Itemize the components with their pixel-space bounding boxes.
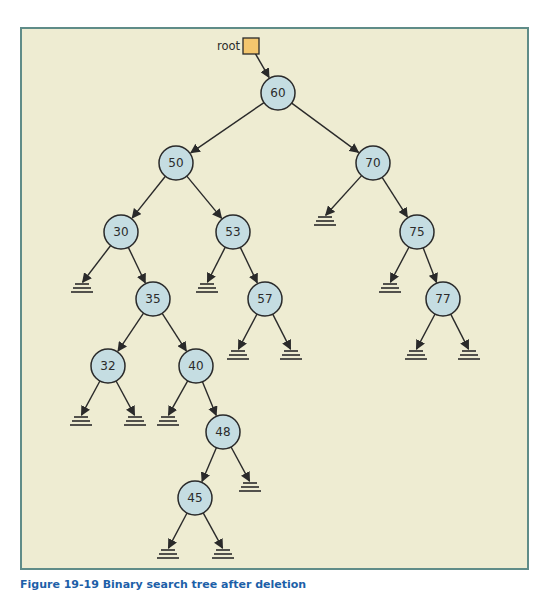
null-icon <box>157 417 179 425</box>
tree-node-35: 35 <box>136 282 170 316</box>
edge-70-75 <box>382 177 407 216</box>
null-icon <box>196 284 218 292</box>
null-icon <box>70 417 92 425</box>
node-value: 35 <box>145 292 160 306</box>
node-value: 60 <box>270 86 285 100</box>
edge-48-null-right <box>231 447 249 481</box>
edge-57-null-right <box>273 314 291 349</box>
edge-32-null-left <box>81 381 99 415</box>
edge-30-35 <box>128 247 145 282</box>
node-value: 75 <box>409 225 424 239</box>
edge-60-70 <box>292 103 359 152</box>
edge-77-null-right <box>451 314 469 349</box>
root-pointer-box <box>243 38 259 54</box>
edge-70-null-left <box>326 176 362 216</box>
tree-node-77: 77 <box>426 282 460 316</box>
tree-node-53: 53 <box>216 215 250 249</box>
root-pointer: root <box>217 38 259 54</box>
null-icon <box>314 217 336 225</box>
null-icon <box>212 550 234 558</box>
edge-53-null-left <box>207 247 225 282</box>
figure-caption: Figure 19-19 Binary search tree after de… <box>20 578 306 591</box>
edge-57-null-left <box>238 314 257 349</box>
tree-node-70: 70 <box>356 146 390 180</box>
node-value: 48 <box>215 425 230 439</box>
tree-node-45: 45 <box>178 481 212 515</box>
edge-75-77 <box>423 248 436 282</box>
node-value: 53 <box>225 225 240 239</box>
tree-node-48: 48 <box>206 415 240 449</box>
null-markers <box>70 217 480 558</box>
null-icon <box>405 351 427 359</box>
edge-50-30 <box>132 176 165 218</box>
null-icon <box>280 351 302 359</box>
tree-node-75: 75 <box>400 215 434 249</box>
edge-35-32 <box>118 313 143 351</box>
node-value: 77 <box>435 292 450 306</box>
edge-32-null-right <box>116 381 134 415</box>
edge-30-null-left <box>83 246 111 283</box>
null-icon <box>157 550 179 558</box>
tree-node-30: 30 <box>104 215 138 249</box>
node-value: 32 <box>100 359 115 373</box>
edge-35-40 <box>162 313 186 351</box>
edge-48-45 <box>202 448 216 482</box>
null-icon <box>458 351 480 359</box>
null-icon <box>124 417 146 425</box>
null-icon <box>239 483 261 491</box>
null-icon <box>227 351 249 359</box>
node-value: 45 <box>187 491 202 505</box>
node-value: 50 <box>168 156 183 170</box>
node-value: 70 <box>365 156 380 170</box>
edge-60-50 <box>191 103 264 153</box>
tree-node-60: 60 <box>261 76 295 110</box>
edge-53-57 <box>240 247 257 282</box>
node-value: 40 <box>188 359 203 373</box>
tree-node-32: 32 <box>91 349 125 383</box>
edge-40-null-left <box>168 381 187 415</box>
tree-node-57: 57 <box>248 282 282 316</box>
tree-node-40: 40 <box>179 349 213 383</box>
node-value: 57 <box>257 292 272 306</box>
root-label: root <box>217 39 241 53</box>
edge-40-48 <box>202 382 216 416</box>
node-value: 30 <box>113 225 128 239</box>
edge-50-53 <box>187 176 222 218</box>
edge-45-null-left <box>168 513 187 548</box>
edge-75-null-left <box>390 247 409 282</box>
null-icon <box>71 284 93 292</box>
null-icon <box>379 284 401 292</box>
edge-77-null-left <box>416 314 435 349</box>
edge-45-null-right <box>203 513 222 548</box>
tree-nodes: 60507030537535577732404845 <box>91 76 460 515</box>
tree-node-50: 50 <box>159 146 193 180</box>
